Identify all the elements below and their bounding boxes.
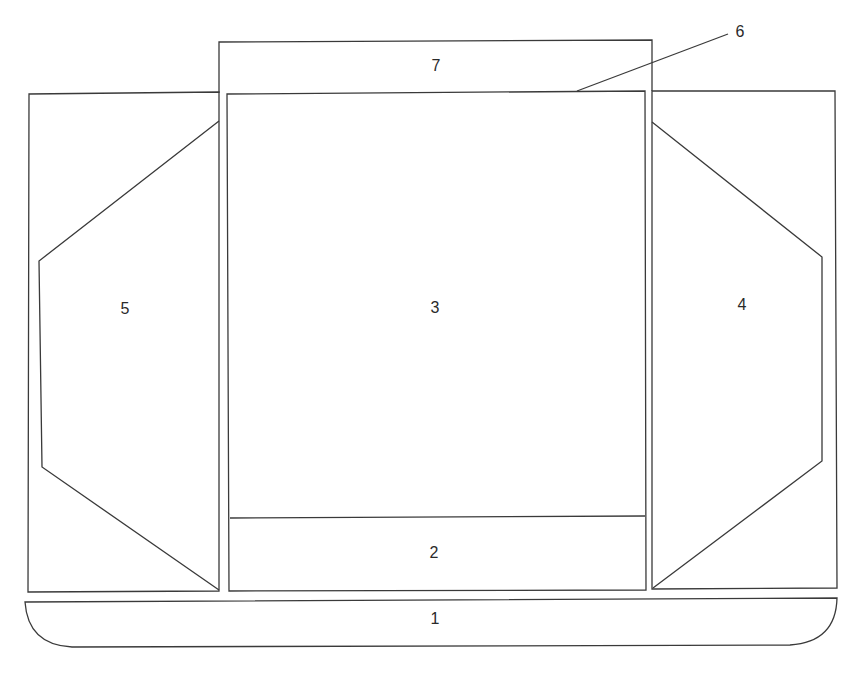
label-1: 1 [431, 610, 440, 627]
label-7: 7 [432, 57, 441, 74]
label-2: 2 [430, 544, 439, 561]
label-6: 6 [736, 23, 745, 40]
carton-net-diagram: 7 5 3 2 4 1 6 [0, 0, 866, 678]
label-4: 4 [738, 296, 747, 313]
label-5: 5 [121, 300, 130, 317]
part-1-base-strip: 1 [25, 598, 837, 647]
part-5-left-panel: 5 [28, 92, 219, 592]
part-7-top-flap: 7 [219, 40, 652, 93]
left-hexagon-flap [39, 121, 219, 590]
label-3: 3 [431, 299, 440, 316]
part-2-lower-band: 2 [230, 516, 645, 561]
part-6-leader: 6 [577, 23, 745, 91]
part-4-right-panel: 4 [652, 91, 837, 589]
right-hexagon-flap [652, 122, 822, 588]
